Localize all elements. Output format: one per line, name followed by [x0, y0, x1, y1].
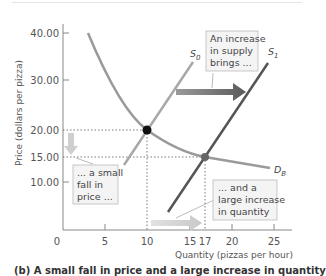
x-ticks: 0 5 10 15 17 20 25 [54, 224, 281, 247]
x-tick-17: 17 [199, 236, 212, 247]
svg-text:... and a: ... and a [218, 182, 257, 193]
y-tick-20: 20.00 [30, 125, 59, 136]
x-axis-title: Quantity (pizzas per hour) [175, 250, 293, 260]
supply-shift-arrow [176, 83, 246, 101]
s1-label: S1 [268, 46, 279, 60]
equilibrium-initial [143, 126, 152, 135]
x-tick-20: 20 [226, 236, 239, 247]
x-tick-15: 15 [184, 236, 197, 247]
y-axis-title: Price (dollars per pizza) [14, 60, 24, 166]
x-tick-5: 5 [102, 236, 108, 247]
y-tick-15: 15.00 [30, 152, 59, 163]
note-small-fall: ... a small fall in price ... [73, 158, 123, 204]
svg-text:in quantity: in quantity [218, 206, 270, 217]
x-tick-10: 10 [141, 236, 154, 247]
equilibrium-new [201, 153, 209, 161]
db-label: DB [274, 164, 286, 178]
svg-text:... a small: ... a small [77, 167, 123, 178]
svg-text:price ...: price ... [77, 191, 113, 202]
svg-text:large increase: large increase [218, 194, 285, 205]
y-tick-10: 10.00 [30, 177, 59, 188]
svg-text:fall in: fall in [77, 179, 103, 190]
note-large-increase: ... and a large increase in quantity [176, 180, 285, 220]
svg-text:brings ...: brings ... [210, 57, 252, 68]
x-tick-25: 25 [268, 236, 281, 247]
price-fall-arrow [64, 133, 78, 155]
x-origin: 0 [54, 236, 60, 247]
y-tick-40: 40.00 [30, 28, 59, 39]
figure-caption: (b) A small fall in price and a large in… [14, 265, 326, 276]
s0-label: S0 [190, 48, 201, 62]
y-tick-30: 30.00 [30, 75, 59, 86]
svg-text:in supply: in supply [210, 45, 253, 56]
svg-text:An increase: An increase [210, 33, 266, 44]
